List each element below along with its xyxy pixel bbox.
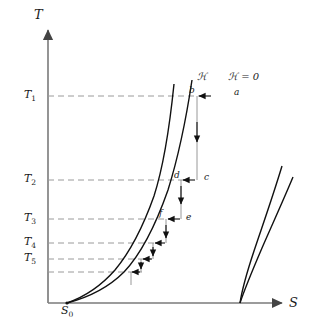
figure-canvas: T S T1 T2 T3 T4 T5 S0 ℋ ℋ = 0 b a d c f … (0, 0, 309, 334)
point-label-e: e (186, 213, 191, 222)
point-label-a: a (234, 88, 239, 97)
entropy-curve-field-zero (67, 80, 192, 303)
entropy-curve-field-on (67, 84, 174, 303)
tick-label-T1: T1 (24, 89, 36, 103)
tick-label-T2: T2 (24, 173, 36, 187)
right-curve-inner (240, 166, 282, 303)
point-label-c: c (204, 173, 209, 182)
entropy-axis-label: S (289, 296, 298, 309)
point-label-f: f (159, 209, 162, 218)
point-label-d: d (174, 171, 180, 180)
origin-entropy-label: S0 (61, 305, 73, 319)
field-on-label: ℋ (197, 72, 207, 82)
right-curve-outer (240, 177, 293, 303)
tick-label-T3: T3 (24, 212, 36, 226)
field-zero-label: ℋ = 0 (228, 72, 259, 82)
tick-label-T4: T4 (24, 236, 36, 250)
tick-label-T5: T5 (24, 252, 36, 266)
ts-diagram-svg (0, 0, 309, 334)
entropy-curves (67, 80, 293, 303)
temperature-axis-label: T (34, 8, 43, 21)
point-label-b: b (189, 86, 195, 95)
isotherm-lines (48, 96, 206, 272)
demagnetization-arrows (141, 122, 197, 269)
